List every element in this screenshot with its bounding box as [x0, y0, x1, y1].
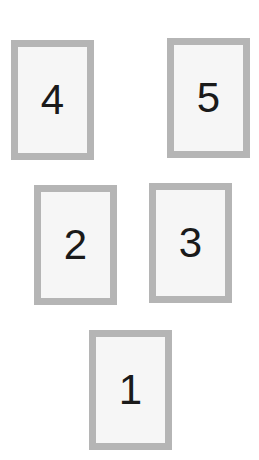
card-number: 1 — [119, 369, 142, 411]
card-number: 5 — [197, 77, 220, 119]
card-2[interactable]: 2 — [34, 185, 117, 305]
card-4[interactable]: 4 — [11, 40, 94, 160]
card-number: 4 — [41, 79, 64, 121]
card-1[interactable]: 1 — [89, 330, 172, 450]
card-number: 3 — [179, 222, 202, 264]
card-3[interactable]: 3 — [149, 183, 232, 303]
card-number: 2 — [64, 224, 87, 266]
card-5[interactable]: 5 — [167, 38, 250, 158]
